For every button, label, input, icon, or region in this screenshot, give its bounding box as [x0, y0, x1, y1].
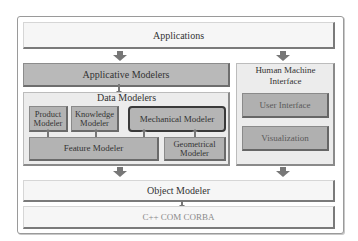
data-modelers-title: Data Modelers [23, 92, 230, 103]
geometrical-modeler-label-line2: Modeler [180, 149, 209, 158]
product-modeler-label-line2: Modeler [34, 119, 63, 128]
feature-modeler: Feature Modeler [29, 137, 159, 161]
mechanical-modeler-label: Mechanical Modeler [140, 114, 215, 124]
down-arrow-icon [113, 167, 127, 177]
feature-modeler-label: Feature Modeler [64, 144, 124, 153]
user-interface-module: User Interface [242, 93, 329, 118]
applicative-modelers-layer: Applicative Modelers [23, 63, 230, 87]
hmi-title: Human Machine Interface [236, 65, 335, 87]
platform-label: C++ COM CORBA [142, 212, 214, 222]
hmi-title-line1: Human Machine [236, 65, 335, 76]
object-modeler-label: Object Modeler [147, 185, 210, 196]
hmi-title-line2: Interface [236, 76, 335, 87]
visualization-module: Visualization [242, 126, 329, 151]
down-arrow-icon [113, 51, 127, 61]
knowledge-modeler-label-line2: Modeler [80, 119, 109, 128]
down-arrow-icon [276, 167, 290, 177]
down-arrow-icon [276, 51, 290, 61]
user-interface-label: User Interface [259, 100, 310, 110]
visualization-label: Visualization [261, 133, 308, 143]
applicative-modelers-label: Applicative Modelers [83, 69, 170, 80]
object-modeler-layer: Object Modeler [23, 180, 335, 202]
platform-layer: C++ COM CORBA [23, 206, 335, 229]
applications-label: Applications [153, 30, 204, 41]
geometrical-modeler: Geometrical Modeler [164, 137, 226, 161]
applications-layer: Applications [23, 22, 335, 49]
